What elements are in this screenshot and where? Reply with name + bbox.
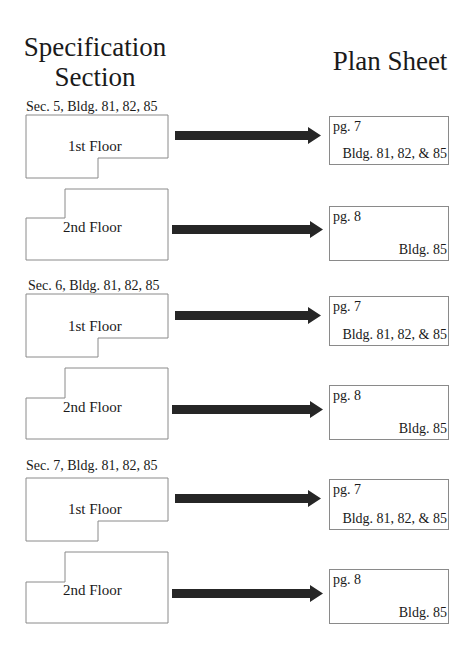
plan-buildings: Bldg. 85 [399, 421, 447, 437]
floor-label: 2nd Floor [63, 399, 122, 416]
arrow-icon [172, 585, 323, 602]
floor-label: 2nd Floor [63, 582, 122, 599]
plan-page-number: pg. 8 [333, 388, 361, 404]
plan-page-number: pg. 7 [333, 482, 361, 498]
section-label: Sec. 6, Bldg. 81, 82, 85 [28, 278, 159, 294]
plan-page-number: pg. 8 [333, 209, 361, 225]
floor-label: 1st Floor [68, 138, 122, 155]
plan-buildings: Bldg. 81, 82, & 85 [342, 146, 447, 162]
plan-buildings: Bldg. 85 [399, 605, 447, 621]
section-label: Sec. 5, Bldg. 81, 82, 85 [26, 99, 157, 115]
arrow-icon [175, 490, 321, 507]
plan-page-number: pg. 7 [333, 119, 361, 135]
floor-label: 2nd Floor [63, 219, 122, 236]
floor-label: 1st Floor [68, 318, 122, 335]
plan-buildings: Bldg. 85 [399, 242, 447, 258]
arrow-icon [175, 127, 321, 144]
plan-buildings: Bldg. 81, 82, & 85 [342, 511, 447, 527]
section-label: Sec. 7, Bldg. 81, 82, 85 [26, 458, 157, 474]
plan-buildings: Bldg. 81, 82, & 85 [342, 327, 447, 343]
plan-page-number: pg. 8 [333, 572, 361, 588]
plan-page-number: pg. 7 [333, 299, 361, 315]
arrow-icon [172, 401, 323, 418]
floor-label: 1st Floor [68, 501, 122, 518]
arrow-icon [172, 221, 323, 238]
arrow-icon [175, 307, 321, 324]
